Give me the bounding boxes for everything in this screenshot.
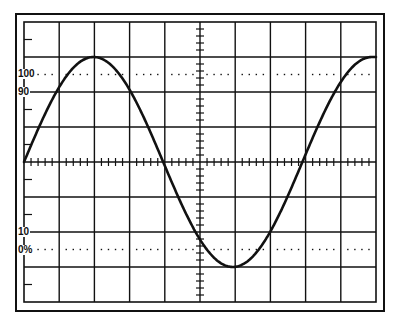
label-0-percent: 0% [17,245,33,255]
oscilloscope-screen [0,0,394,323]
label-10-percent: 10 [17,227,30,237]
label-100-percent: 100 [17,69,36,79]
label-90-percent: 90 [17,87,30,97]
